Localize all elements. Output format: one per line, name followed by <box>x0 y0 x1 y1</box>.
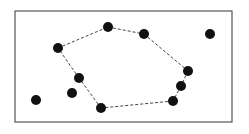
hull-point <box>176 81 186 91</box>
hull-edge <box>58 27 108 48</box>
hull-edges <box>58 27 188 108</box>
hull-point <box>139 29 149 39</box>
diagram-frame <box>15 11 232 122</box>
interior-point <box>205 29 215 39</box>
hull-point <box>53 43 63 53</box>
convex-hull-diagram <box>0 0 249 134</box>
interior-point <box>31 95 41 105</box>
hull-edge <box>79 78 101 108</box>
hull-edge <box>101 101 173 108</box>
points-layer <box>31 22 215 113</box>
hull-point <box>168 96 178 106</box>
interior-point <box>67 88 77 98</box>
hull-edge <box>58 48 79 78</box>
hull-point <box>74 73 84 83</box>
hull-point <box>183 66 193 76</box>
hull-point <box>96 103 106 113</box>
hull-point <box>103 22 113 32</box>
hull-edge <box>108 27 144 34</box>
hull-edge <box>144 34 188 71</box>
